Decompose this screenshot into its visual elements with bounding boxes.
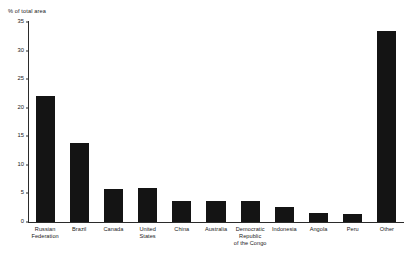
bar-chart: % of total area 05101520253035 RussianFe… (0, 0, 411, 264)
bar (206, 201, 225, 222)
bar-slot (138, 22, 157, 222)
y-tick-label: 0 (21, 219, 24, 225)
bar (275, 207, 294, 222)
bar (138, 188, 157, 222)
y-tick-label: 5 (21, 191, 24, 197)
y-tick-label: 30 (18, 48, 24, 54)
x-tick-label-line: of the Congo (229, 240, 271, 247)
bar (36, 96, 55, 222)
x-axis-line (28, 222, 404, 223)
bar (104, 189, 123, 222)
x-tick-label-line: Other (366, 226, 408, 233)
bar-slot (343, 22, 362, 222)
bar (241, 201, 260, 222)
x-axis-labels: RussianFederationBrazilCanadaUnitedState… (28, 226, 404, 262)
plot-area: 05101520253035 (28, 22, 404, 222)
y-tick-label: 20 (18, 105, 24, 111)
bar-slot (104, 22, 123, 222)
x-tick-label-line: States (127, 233, 169, 240)
bar (172, 201, 191, 222)
y-tick-label: 15 (18, 133, 24, 139)
bar-slot (172, 22, 191, 222)
x-tick-label-line: Federation (24, 233, 66, 240)
bar (377, 31, 396, 222)
y-tick-label: 10 (18, 162, 24, 168)
x-tick-label-line: Republic (229, 233, 271, 240)
bar-slot (206, 22, 225, 222)
bar-slot (70, 22, 89, 222)
bar (343, 214, 362, 222)
bar (309, 213, 328, 222)
bar-slot (275, 22, 294, 222)
bar-series (28, 22, 404, 222)
bar-slot (36, 22, 55, 222)
x-tick-label: Other (366, 226, 408, 233)
bar (70, 143, 89, 222)
bar-slot (309, 22, 328, 222)
y-axis-title: % of total area (8, 8, 46, 14)
bar-slot (377, 22, 396, 222)
y-tick-label: 35 (18, 19, 24, 25)
y-tick-label: 25 (18, 76, 24, 82)
bar-slot (241, 22, 260, 222)
